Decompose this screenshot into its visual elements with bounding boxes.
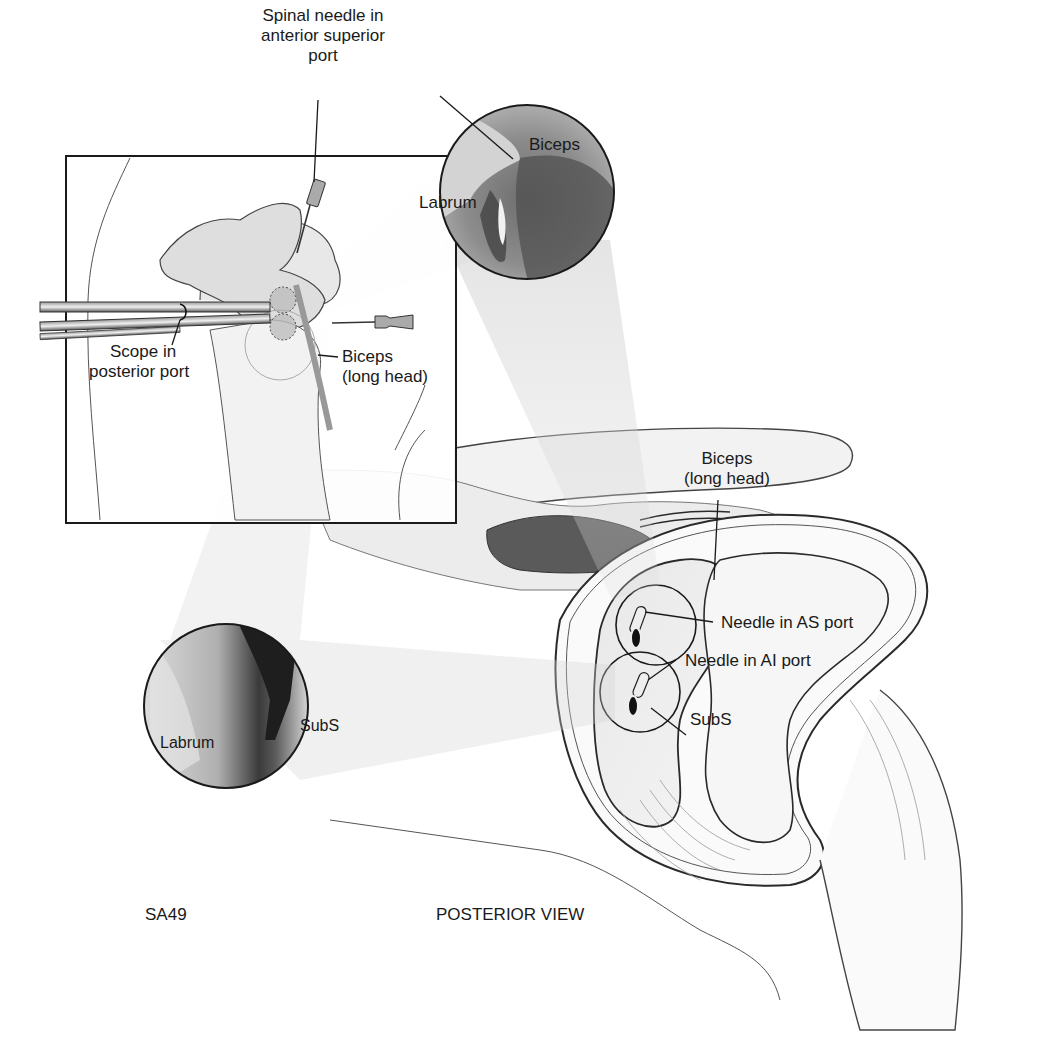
label-main-subs: SubS <box>690 710 732 729</box>
label-main-biceps-2: (long head) <box>684 469 770 488</box>
acromion <box>455 428 853 506</box>
label-spinal-needle-3: port <box>308 46 338 65</box>
label-needle-as-port: Needle in AS port <box>721 613 854 632</box>
label-top-biceps: Biceps <box>529 135 580 154</box>
label-spinal-needle-2: anterior superior <box>261 26 385 45</box>
figure-id: SA49 <box>145 905 187 924</box>
humerus-shaft <box>820 690 962 1030</box>
inset-external-view <box>40 100 456 523</box>
label-scope-posterior-2: posterior port <box>89 362 189 381</box>
label-inset-biceps: Biceps <box>342 347 393 366</box>
label-needle-ai-port: Needle in AI port <box>685 651 811 670</box>
label-spinal-needle: Spinal needle in <box>263 6 384 25</box>
shoulder-arthroscopy-illustration: Spinal needle in anterior superior port … <box>0 0 1039 1040</box>
label-scope-posterior: Scope in <box>110 342 176 361</box>
label-main-biceps: Biceps <box>701 449 752 468</box>
label-inset-biceps-2: (long head) <box>342 367 428 386</box>
label-top-labrum: Labrum <box>419 193 477 212</box>
view-caption: POSTERIOR VIEW <box>436 905 584 924</box>
label-bottom-subs: SubS <box>300 717 339 734</box>
label-bottom-labrum: Labrum <box>160 734 214 751</box>
